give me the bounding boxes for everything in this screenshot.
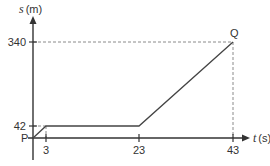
tick-label-3: 3	[43, 144, 49, 156]
point-label-q: Q	[230, 27, 239, 39]
dashed-guides	[33, 42, 233, 138]
x-axis-label: t(s)	[253, 131, 270, 145]
chart: s(m) t(s) 340 42 3 23 43 P Q	[0, 0, 270, 166]
y-axis-arrow-icon	[30, 16, 37, 24]
tick-label-42: 42	[14, 120, 26, 132]
tick-label-43: 43	[227, 144, 239, 156]
tick-label-23: 23	[133, 144, 145, 156]
y-axis-label: s(m)	[19, 2, 42, 16]
data-line	[33, 42, 233, 138]
tick-label-340: 340	[8, 36, 26, 48]
ticks	[29, 42, 233, 142]
x-axis-arrow-icon	[242, 135, 250, 142]
point-label-p: P	[21, 132, 28, 144]
axes	[28, 22, 244, 160]
